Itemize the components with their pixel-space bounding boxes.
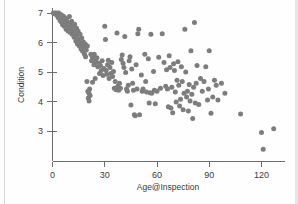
data-point — [180, 79, 185, 84]
data-point — [123, 70, 128, 75]
data-point — [146, 56, 151, 61]
data-point — [158, 86, 163, 91]
data-point — [87, 98, 92, 103]
data-point — [134, 62, 139, 67]
data-point — [134, 87, 139, 92]
data-point — [185, 89, 190, 94]
data-point — [214, 83, 219, 88]
data-point — [168, 105, 173, 110]
data-point — [183, 70, 188, 75]
data-point — [133, 113, 138, 118]
data-point — [121, 61, 126, 66]
data-point — [200, 89, 205, 94]
data-point — [93, 76, 98, 81]
data-point — [148, 32, 153, 37]
plot-canvas: 34567 0306090120 Age@Inspection Conditio… — [0, 0, 298, 204]
data-point — [208, 111, 213, 116]
data-point — [188, 48, 193, 53]
data-point — [187, 82, 192, 87]
data-point — [177, 103, 182, 108]
data-point — [127, 58, 132, 63]
data-point — [219, 81, 224, 86]
data-point — [210, 95, 215, 100]
data-point — [128, 103, 133, 108]
data-point — [196, 102, 201, 107]
data-point — [122, 34, 127, 39]
data-point — [259, 130, 264, 135]
data-point — [121, 65, 126, 70]
data-point — [205, 98, 210, 103]
data-point — [167, 53, 172, 58]
data-point — [147, 100, 152, 105]
data-point — [179, 64, 184, 69]
data-point — [170, 110, 175, 115]
data-point — [168, 65, 173, 70]
data-point — [102, 24, 107, 29]
data-point — [207, 48, 212, 53]
data-point — [103, 37, 108, 42]
data-point — [206, 87, 211, 92]
y-tick-label: 6 — [38, 38, 43, 48]
y-tick-label: 4 — [38, 97, 43, 107]
data-point — [175, 78, 180, 83]
data-point — [192, 20, 197, 25]
data-point — [118, 86, 123, 91]
data-point — [171, 61, 176, 66]
x-tick-label: 60 — [152, 170, 162, 180]
data-point — [143, 79, 148, 84]
data-point — [202, 79, 207, 84]
data-point — [87, 87, 92, 92]
data-point — [142, 52, 147, 57]
y-tick-label: 7 — [38, 8, 43, 18]
data-point — [189, 92, 194, 97]
data-point — [111, 69, 116, 74]
data-point — [172, 68, 177, 73]
data-point — [136, 27, 141, 32]
data-point — [139, 72, 144, 77]
data-point — [175, 59, 180, 64]
x-tick-label: 90 — [204, 170, 214, 180]
data-points-layer — [51, 11, 276, 152]
data-point — [238, 111, 243, 116]
data-point — [215, 98, 220, 103]
data-point — [153, 101, 158, 106]
data-point — [130, 81, 135, 86]
x-axis-group: 0306090120 — [50, 162, 285, 181]
data-point — [85, 44, 90, 49]
data-point — [126, 83, 131, 88]
scatter-plot-figure: 34567 0306090120 Age@Inspection Conditio… — [0, 0, 298, 204]
y-tick-label: 5 — [38, 67, 43, 77]
data-point — [174, 100, 179, 105]
data-point — [109, 60, 114, 65]
data-point — [128, 54, 133, 59]
data-point — [100, 58, 105, 63]
data-point — [178, 97, 183, 102]
data-point — [212, 78, 217, 83]
data-point — [114, 31, 119, 36]
y-axis-group: 34567 — [38, 8, 57, 161]
data-point — [84, 79, 89, 84]
data-point — [184, 95, 189, 100]
data-point — [107, 65, 112, 70]
data-point — [181, 107, 186, 112]
data-point — [186, 108, 191, 113]
y-tick-label: 3 — [38, 126, 43, 136]
data-point — [182, 27, 187, 32]
data-point — [188, 98, 193, 103]
data-point — [271, 126, 276, 131]
x-axis-ticks: 0306090120 — [50, 162, 269, 181]
data-point — [129, 67, 134, 72]
x-axis-label: Age@Inspection — [137, 182, 200, 192]
data-point — [222, 91, 227, 96]
data-point — [113, 79, 118, 84]
data-point — [125, 89, 130, 94]
y-axis-ticks: 34567 — [38, 8, 57, 136]
data-point — [83, 54, 88, 59]
data-point — [169, 85, 174, 90]
data-point — [161, 60, 166, 65]
data-point — [135, 31, 140, 36]
data-point — [110, 74, 115, 79]
data-point — [67, 14, 72, 19]
data-point — [137, 112, 142, 117]
data-point — [117, 81, 122, 86]
